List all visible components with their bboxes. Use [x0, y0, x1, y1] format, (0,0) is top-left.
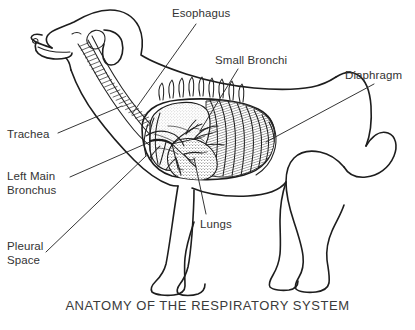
label-left-main-bronchus-line1: Left Main	[7, 170, 56, 184]
label-pleural-space-line1: Pleural	[7, 240, 44, 254]
leader-trachea	[58, 106, 122, 133]
tracheal-rings	[79, 43, 158, 129]
label-diaphragm: Diaphragm	[345, 69, 402, 83]
label-trachea: Trachea	[7, 128, 49, 142]
label-esophagus: Esophagus	[172, 7, 230, 21]
leader-left-main-bronchus	[70, 141, 152, 177]
trachea-structure	[78, 40, 160, 147]
respiratory-system-diagram	[0, 0, 415, 330]
thorax-group	[142, 77, 276, 181]
label-pleural-space: Pleural Space	[7, 240, 44, 267]
leader-pleural-space	[46, 156, 146, 252]
label-pleural-space-line2: Space	[7, 254, 44, 268]
label-lungs: Lungs	[200, 218, 232, 232]
figure-title: ANATOMY OF THE RESPIRATORY SYSTEM	[0, 298, 415, 313]
label-left-main-bronchus-line2: Bronchus	[7, 184, 56, 198]
label-left-main-bronchus: Left Main Bronchus	[7, 170, 56, 197]
esophagus-tube	[92, 36, 156, 130]
label-small-bronchi: Small Bronchi	[215, 54, 287, 68]
anatomy-figure: Esophagus Small Bronchi Diaphragm Trache…	[0, 0, 415, 330]
leader-diaphragm	[266, 84, 374, 142]
